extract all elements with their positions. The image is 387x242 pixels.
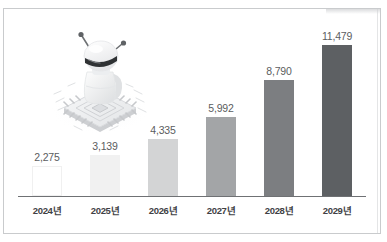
capture-edge-artifact <box>326 9 380 14</box>
chart-figure-inner: 2,2753,1394,3355,9928,79011,479 2024년202… <box>4 9 380 233</box>
bar-value-label: 2,275 <box>34 151 59 163</box>
chart-figure-frame: 2,2753,1394,3355,9928,79011,479 2024년202… <box>3 8 381 234</box>
x-axis-tick-label: 2029년 <box>308 203 366 217</box>
bar-group: 2,275 <box>18 27 76 196</box>
bar <box>206 117 236 196</box>
bar-value-label: 11,479 <box>322 30 352 42</box>
x-axis-tick-label: 2026년 <box>134 203 192 217</box>
bar-value-label: 5,992 <box>208 102 233 114</box>
bar-value-label: 4,335 <box>150 124 175 136</box>
capture-edge-artifact-right <box>377 9 378 233</box>
x-axis-tick-label: 2024년 <box>18 203 76 217</box>
screenshot-root: 2,2753,1394,3355,9928,79011,479 2024년202… <box>0 0 387 242</box>
bar-value-label: 8,790 <box>266 65 291 77</box>
x-axis-tick-label: 2025년 <box>76 203 134 217</box>
bar <box>90 155 120 196</box>
bar-group: 5,992 <box>192 27 250 196</box>
bar-group: 3,139 <box>76 27 134 196</box>
bar <box>32 166 62 196</box>
bar-series: 2,2753,1394,3355,9928,79011,479 <box>18 27 366 196</box>
x-axis-tick-label: 2028년 <box>250 203 308 217</box>
bar-value-label: 3,139 <box>92 140 117 152</box>
x-axis-tick-labels: 2024년2025년2026년2027년2028년2029년 <box>18 203 366 221</box>
bar-group: 4,335 <box>134 27 192 196</box>
bar-group: 8,790 <box>250 27 308 196</box>
x-axis-tick-label: 2027년 <box>192 203 250 217</box>
bar <box>148 139 178 196</box>
bar <box>322 45 352 196</box>
bar <box>264 80 294 196</box>
bar-group: 11,479 <box>308 27 366 196</box>
x-axis-line <box>18 196 366 197</box>
